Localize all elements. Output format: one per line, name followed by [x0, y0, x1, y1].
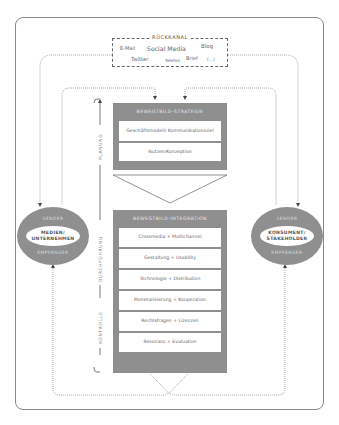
- rueckkanal-box: RÜCKKANAL E-Mail Social Media Blog Twitt…: [112, 38, 228, 67]
- strategie-item: Nutzen/Konzeption: [119, 143, 221, 161]
- phase-kontrolle: KONTROLLE: [98, 311, 103, 344]
- integration-item: Rechtsfragen + Lizenzen: [119, 312, 221, 331]
- node-konsument-stakeholder: SENDER KONSUMENT/ STAKEHOLDER EMPFÄNGER: [251, 207, 323, 265]
- sender-label: SENDER: [17, 216, 89, 221]
- integration-item: Gestaltung + Usability: [119, 249, 221, 268]
- phase-durchfuehrung: DURCHFÜHRUNG: [98, 236, 103, 282]
- node-label: KONSUMENT/ STAKEHOLDER: [260, 226, 314, 246]
- node-medien-unternehmen: SENDER MEDIEN/ UNTERNEHMEN EMPFÄNGER: [17, 207, 89, 265]
- integration-title: BEWEGTBILD-INTEGRATION: [113, 216, 227, 221]
- integration-item: Technologie + Distribution: [119, 270, 221, 289]
- empfaenger-label: EMPFÄNGER: [17, 250, 89, 255]
- strategie-box: BEWEGTBILD-STRATEGIE Geschäftsmodell/ Ko…: [113, 103, 227, 170]
- integration-item: Monetarisierung + Kooperation: [119, 291, 221, 310]
- integration-box: BEWEGTBILD-INTEGRATION Crossmedia + Mult…: [113, 210, 227, 373]
- sender-label: SENDER: [251, 216, 323, 221]
- channel-more: (...): [207, 57, 215, 62]
- integration-item: Resonanz + Evaluation: [119, 333, 221, 352]
- rueckkanal-title: RÜCKKANAL: [149, 34, 191, 40]
- integration-item: Crossmedia + Multichannel: [119, 228, 221, 247]
- channel-social-media: Social Media: [147, 45, 186, 52]
- channel-telefon: Telefon: [165, 58, 180, 63]
- node-label: MEDIEN/ UNTERNEHMEN: [26, 226, 80, 246]
- channel-email: E-Mail: [120, 45, 135, 51]
- channel-brief: Brief: [186, 55, 198, 61]
- strategie-title: BEWEGTBILD-STRATEGIE: [113, 109, 227, 114]
- phase-planung: PLANUNG: [98, 134, 103, 160]
- channel-blog: Blog: [201, 43, 213, 49]
- channel-twitter: Twitter: [131, 56, 148, 62]
- empfaenger-label: EMPFÄNGER: [251, 250, 323, 255]
- strategie-item: Geschäftsmodell/ Kommunikationsziel: [119, 121, 221, 141]
